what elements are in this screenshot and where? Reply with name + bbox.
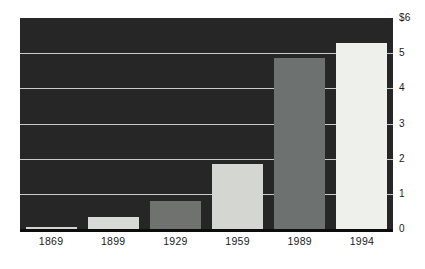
y-tick-label-4: 4: [399, 83, 405, 93]
x-tick-label-1899: 1899: [82, 236, 144, 247]
x-axis-line: [20, 229, 393, 232]
x-tick-label-1959: 1959: [207, 236, 269, 247]
bar-1989: [274, 58, 325, 229]
bar-chart: 012345$6 186918991929195919891994: [0, 0, 425, 269]
x-tick-label-1994: 1994: [331, 236, 393, 247]
y-tick-label-0: 0: [399, 224, 405, 234]
bar-1959: [212, 164, 263, 229]
y-tick-label-5: 5: [399, 48, 405, 58]
x-tick-label-1989: 1989: [269, 236, 331, 247]
x-tick-label-1869: 1869: [20, 236, 82, 247]
bar-1899: [88, 217, 139, 229]
plot-area: [20, 18, 393, 229]
y-tick-label-1: 1: [399, 189, 405, 199]
y-tick-label-2: 2: [399, 154, 405, 164]
y-tick-label-6: $6: [399, 13, 411, 23]
y-tick-label-3: 3: [399, 119, 405, 129]
bar-1929: [150, 201, 201, 229]
x-tick-label-1929: 1929: [144, 236, 206, 247]
bar-1994: [336, 43, 387, 229]
